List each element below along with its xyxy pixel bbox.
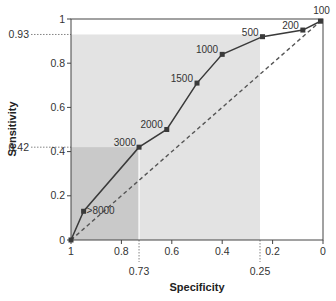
x-tick-label: 0.4 bbox=[215, 245, 230, 257]
x-tick-label: 0 bbox=[320, 245, 326, 257]
y-tick-label: 0.4 bbox=[50, 145, 65, 157]
x-axis-title: Specificity bbox=[169, 281, 225, 293]
data-point-marker bbox=[300, 28, 305, 33]
point-label: 500 bbox=[242, 27, 259, 38]
shaded-region-2 bbox=[71, 147, 139, 240]
ref-label-x: 0.73 bbox=[129, 265, 150, 277]
y-tick-label: 1 bbox=[59, 13, 65, 25]
roc-chart: 0.930.420.730.25 00.20.40.60.8110.80.60.… bbox=[0, 0, 336, 301]
point-label: 3000 bbox=[114, 137, 137, 148]
data-point-marker bbox=[220, 52, 225, 57]
data-point-marker bbox=[260, 34, 265, 39]
data-point-marker bbox=[137, 145, 142, 150]
point-label: 100 bbox=[313, 5, 330, 16]
y-tick-label: 0.6 bbox=[50, 101, 65, 113]
y-axis-title: Sensitivity bbox=[6, 101, 18, 157]
x-tick-label: 0.6 bbox=[164, 245, 179, 257]
data-point-marker bbox=[69, 238, 74, 243]
point-label: 2000 bbox=[141, 119, 164, 130]
point-label: 1000 bbox=[196, 44, 219, 55]
x-tick-label: 0.8 bbox=[114, 245, 129, 257]
ref-label-y: 0.93 bbox=[9, 28, 30, 40]
point-label: 1500 bbox=[171, 73, 194, 84]
x-tick-label: 1 bbox=[68, 245, 74, 257]
x-tick-label: 0.2 bbox=[265, 245, 280, 257]
data-point-marker bbox=[81, 209, 86, 214]
data-point-marker bbox=[164, 127, 169, 132]
y-tick-label: 0.8 bbox=[50, 57, 65, 69]
data-point-marker bbox=[318, 19, 323, 24]
ref-label-x: 0.25 bbox=[250, 265, 271, 277]
y-tick-label: 0.2 bbox=[50, 189, 65, 201]
y-tick-label: 0 bbox=[59, 234, 65, 246]
point-label: >8000 bbox=[87, 205, 116, 216]
data-point-marker bbox=[195, 81, 200, 86]
point-label: 200 bbox=[282, 20, 299, 31]
